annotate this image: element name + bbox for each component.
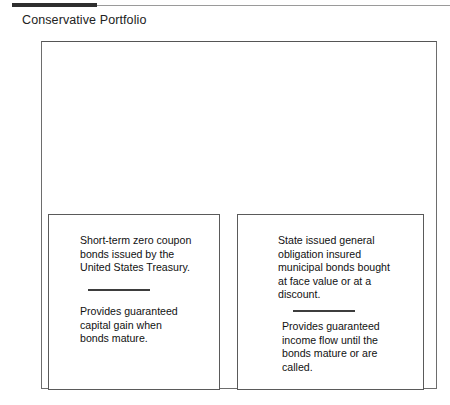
bar-left[interactable]: Short-term zero coupon bonds issued by t… <box>48 214 220 390</box>
y-axis: 100% 90% 80% 70% 60% 50% 40% 30% 20% 10%… <box>0 0 41 405</box>
bar-right-body: State issued general obligation insured … <box>238 215 423 389</box>
bar-right-benefit: Provides guaranteed income flow until th… <box>282 320 427 374</box>
bar-right-separator <box>293 310 355 312</box>
bar-left-body: Short-term zero coupon bonds issued by t… <box>49 215 219 389</box>
bar-left-benefit: Provides guaranteed capital gain when bo… <box>80 305 215 346</box>
bar-right-description: State issued general obligation insured … <box>278 234 423 302</box>
bar-right[interactable]: State issued general obligation insured … <box>237 214 424 390</box>
chart-page: Conservative Portfolio 100% 90% 80% 70% … <box>0 0 450 405</box>
bar-left-separator <box>88 289 150 291</box>
bar-left-description: Short-term zero coupon bonds issued by t… <box>80 234 215 275</box>
